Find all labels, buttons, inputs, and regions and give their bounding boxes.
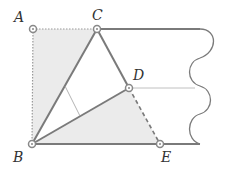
- point-marker-e: [157, 141, 164, 148]
- point-marker-c: [94, 26, 101, 33]
- wavy-torn-edge: [190, 29, 214, 144]
- perpendicular-line: [65, 86, 80, 116]
- point-marker-b: [29, 141, 36, 148]
- point-marker-d: [126, 85, 133, 92]
- label-a: A: [12, 9, 24, 25]
- label-c: C: [92, 7, 103, 23]
- geometry-diagram: A C D B E: [0, 0, 227, 180]
- edge-cd: [97, 29, 129, 88]
- label-d: D: [132, 67, 144, 83]
- point-marker-a: [30, 26, 37, 33]
- label-b: B: [12, 149, 23, 165]
- label-e: E: [160, 149, 171, 165]
